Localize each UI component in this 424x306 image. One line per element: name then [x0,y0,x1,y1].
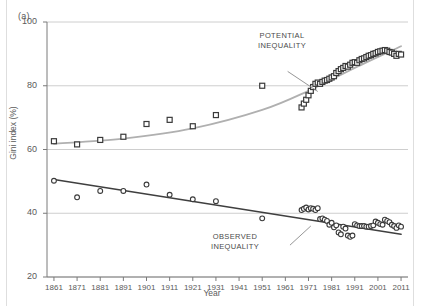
annotation-potential-inequality: POTENTIAL INEQUALITY [246,31,318,50]
y-tick-label-80: 80 [11,80,37,90]
y-tick-label-100: 100 [11,16,37,26]
data-point-potential [98,137,103,142]
y-tick-label-20: 20 [11,271,37,281]
data-point-potential [213,113,218,118]
data-point-observed [350,233,355,238]
annotation-observed-inequality: OBSERVED INEQUALITY [196,232,274,251]
data-point-observed [190,197,195,202]
data-point-observed [334,223,339,228]
data-point-observed [167,192,172,197]
data-point-observed [98,189,103,194]
data-point-observed [214,199,219,204]
data-point-observed [338,232,343,237]
trendline-potential [54,46,401,144]
trendline-observed [54,179,401,234]
y-tick-label-40: 40 [11,207,37,217]
data-point-potential [75,142,80,147]
series-potential [51,48,403,147]
chart-plot-area [0,0,424,306]
y-tick-label-60: 60 [11,144,37,154]
data-point-observed [380,222,385,227]
data-point-potential [121,134,126,139]
data-point-observed [75,195,80,200]
x-tick-label-2011: 2011 [384,283,418,292]
figure-panel-a: (a) Gini index (%) Year POTENTIAL INEQUA… [0,0,424,306]
annotation-leader-observed [290,226,311,245]
data-point-potential [167,117,172,122]
data-point-potential [399,52,404,57]
data-point-potential [144,122,149,127]
data-point-observed [144,182,149,187]
data-point-observed [399,224,404,229]
data-point-observed [121,189,126,194]
data-point-observed [260,216,265,221]
data-point-potential [260,83,265,88]
data-point-observed [52,178,57,183]
data-point-potential [190,124,195,129]
data-point-observed [315,206,320,211]
data-point-observed [343,226,348,231]
data-point-potential [51,139,56,144]
